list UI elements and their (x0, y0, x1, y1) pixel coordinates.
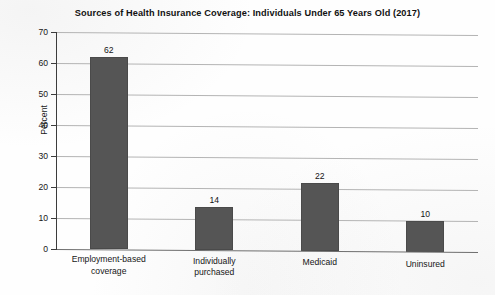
bar-1 (195, 207, 233, 250)
y-tick-mark-50 (51, 94, 57, 95)
x-axis-label-line: coverage (54, 266, 164, 278)
y-tick-mark-10 (51, 218, 57, 219)
y-tick-mark-70 (51, 32, 57, 33)
gridline-70 (56, 32, 478, 36)
y-tick-mark-20 (51, 187, 57, 188)
x-axis-label-line: Employment-based (54, 254, 164, 266)
y-tick-mark-40 (51, 125, 57, 126)
x-axis-label-1: Individuallypurchased (159, 256, 269, 279)
y-tick-label-10: 10 (20, 213, 48, 223)
x-axis-label-line: Uninsured (370, 259, 480, 271)
chart-title: Sources of Health Insurance Coverage: In… (0, 8, 495, 18)
x-axis-label-2: Medicaid (265, 257, 375, 269)
y-tick-mark-60 (51, 63, 57, 64)
y-tick-label-30: 30 (20, 151, 48, 161)
y-tick-label-20: 20 (20, 182, 48, 192)
bar-chart-figure: Sources of Health Insurance Coverage: In… (0, 0, 495, 295)
bar-value-label-2: 22 (290, 171, 350, 181)
y-tick-mark-0 (51, 249, 57, 250)
x-axis-label-0: Employment-basedcoverage (54, 254, 164, 277)
y-tick-label-60: 60 (20, 58, 48, 68)
bar-value-label-1: 14 (184, 195, 244, 205)
x-axis-label-3: Uninsured (370, 259, 480, 271)
bar-3 (406, 221, 444, 252)
y-tick-mark-30 (51, 156, 57, 157)
x-axis-label-line: Medicaid (265, 257, 375, 269)
x-axis-label-line: Individually (159, 256, 269, 268)
bar-value-label-0: 62 (79, 45, 139, 55)
y-tick-label-70: 70 (20, 27, 48, 37)
bar-0 (90, 57, 128, 249)
bar-value-label-3: 10 (395, 209, 455, 219)
x-axis-label-line: purchased (159, 267, 269, 279)
y-tick-label-40: 40 (20, 120, 48, 130)
bar-2 (301, 183, 339, 251)
y-tick-label-0: 0 (20, 244, 48, 254)
y-tick-label-50: 50 (20, 89, 48, 99)
plot-area: 62142210 (56, 32, 478, 249)
